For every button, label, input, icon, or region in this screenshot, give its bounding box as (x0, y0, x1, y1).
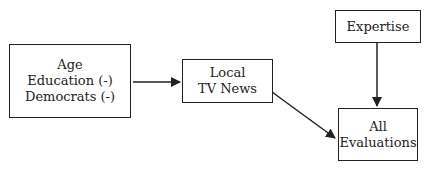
node-local-tv-news-line-1: Local (210, 65, 246, 81)
node-local-tv-news: Local TV News (182, 59, 273, 103)
node-local-tv-news-line-2: TV News (198, 81, 257, 97)
node-predictors-line-3: Democrats (-) (25, 89, 115, 105)
node-all-evaluations-line-1: All (369, 119, 387, 135)
node-expertise-line-1: Expertise (347, 19, 410, 35)
path-diagram: Age Education (-) Democrats (-) Local TV… (0, 0, 431, 174)
node-predictors: Age Education (-) Democrats (-) (9, 44, 131, 118)
node-predictors-line-1: Age (57, 57, 82, 73)
node-all-evaluations-line-2: Evaluations (339, 135, 416, 151)
node-expertise: Expertise (335, 10, 421, 43)
edge-local-tv-news-to-all-evaluations (272, 92, 335, 138)
node-predictors-line-2: Education (-) (27, 73, 112, 89)
node-all-evaluations: All Evaluations (338, 108, 418, 161)
